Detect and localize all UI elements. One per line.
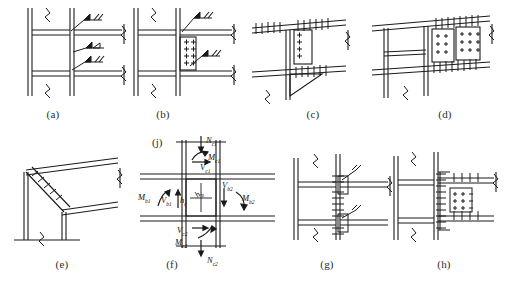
shear-plate <box>294 30 312 64</box>
panel-c-bolted-plate-with-haunch-bracket <box>250 4 370 104</box>
caption-h: (h) <box>424 258 464 270</box>
weld-leader-2 <box>73 48 86 52</box>
label-j: (j) <box>152 136 162 148</box>
annotation-leaders <box>342 165 361 218</box>
force-label-Nc2: Nc2 <box>207 256 218 267</box>
panel-g-bolted-web-connection <box>280 140 400 245</box>
force-label-Nc1: Nc1 <box>206 136 217 147</box>
bolt-marks <box>436 173 478 228</box>
panel-a-fully-welded-connection <box>18 4 138 104</box>
force-label-Vb2: Vb2 <box>222 181 233 192</box>
brace-bolt-row <box>32 171 62 200</box>
force-label-Vc2: Vc2 <box>177 226 187 237</box>
bolt-plate-right <box>456 27 480 60</box>
force-label-Mb2: Mb2 <box>242 194 255 205</box>
force-label-Vb1: Vb1 <box>161 196 172 207</box>
panel-e-diagonal-haunch-brace <box>10 140 135 245</box>
panel-b-bolted-end-plate-connection <box>128 4 248 104</box>
caption-b: (b) <box>143 108 183 120</box>
panel-h-bolted-flange-and-web-plate <box>390 140 508 245</box>
force-label-Mc2: Mc2 <box>175 238 187 249</box>
bolt-plate-left <box>432 29 454 62</box>
panel-d-double-bolt-group-splice <box>368 4 503 104</box>
caption-c: (c) <box>293 108 333 120</box>
caption-g: (g) <box>307 258 347 270</box>
bolt-group <box>184 40 196 66</box>
force-label-Vc1: Vc1 <box>200 163 210 174</box>
caption-a: (a) <box>33 108 73 120</box>
caption-e: (e) <box>42 258 82 270</box>
weld-leader-1 <box>71 20 84 31</box>
haunch-bracket <box>290 74 322 96</box>
force-label-Mb1: Mb1 <box>138 193 151 204</box>
dimension-label-hc: hc <box>180 196 187 207</box>
caption-d: (d) <box>425 108 465 120</box>
connection-details-figure: (a) <box>0 0 508 294</box>
caption-f: (f) <box>152 258 192 270</box>
